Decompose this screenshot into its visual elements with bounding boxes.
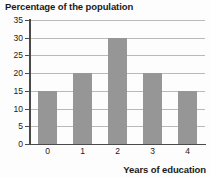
x-axis-tick-label: 0 [45,146,50,156]
y-axis-tick [25,20,29,21]
x-axis-title: Years of education [123,164,206,175]
bar [38,91,57,144]
y-axis-line [29,19,31,145]
y-axis-tick [25,73,29,74]
y-axis-tick-label: 10 [1,104,23,114]
y-axis-tick-label: 15 [1,86,23,96]
bar-chart: Percentage of the population 05101520253… [0,0,210,177]
x-axis-line [29,144,206,146]
y-axis-tick-label: 35 [1,15,23,25]
y-axis-tick-label: 25 [1,50,23,60]
y-axis-tick [25,144,29,145]
bar [108,38,127,144]
bar [178,91,197,144]
x-axis-tick-labels: 01234 [30,146,205,160]
x-axis-tick-label: 1 [80,146,85,156]
y-axis-tick-label: 30 [1,33,23,43]
y-axis-tick [25,91,29,92]
x-axis-tick-label: 4 [185,146,190,156]
chart-title: Percentage of the population [5,1,133,12]
y-axis-tick-label: 0 [1,139,23,149]
y-axis-tick-labels: 05101520253035 [0,0,23,177]
x-axis-tick-label: 3 [150,146,155,156]
y-axis-tick [25,55,29,56]
y-axis-tick-label: 5 [1,121,23,131]
y-axis-tick [25,38,29,39]
y-axis-tick-label: 20 [1,68,23,78]
bars-layer [30,20,205,144]
y-axis-tick [25,109,29,110]
bar [73,73,92,144]
y-axis-tick [25,126,29,127]
bar [143,73,162,144]
x-axis-tick-label: 2 [115,146,120,156]
